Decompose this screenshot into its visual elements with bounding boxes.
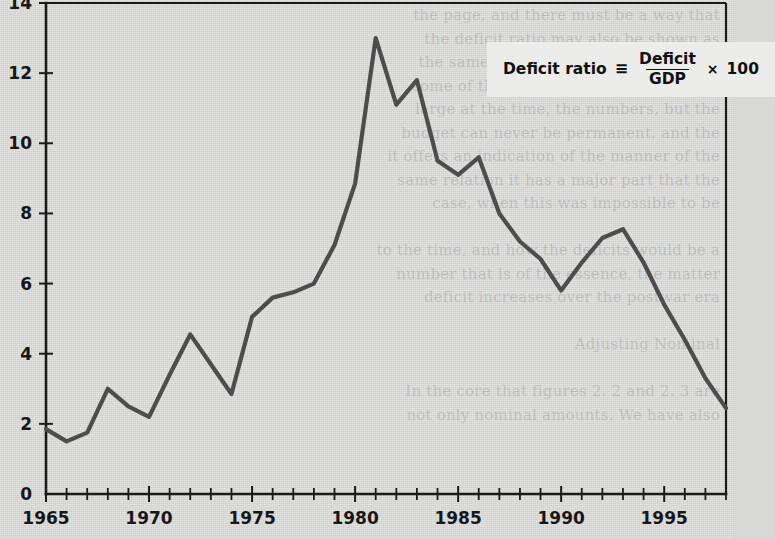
y-tick-label: 12: [8, 63, 32, 83]
legend-label: Deficit ratio: [503, 61, 607, 78]
y-axis-tick-labels: 02468101214: [8, 0, 32, 504]
x-tick-label: 1975: [228, 508, 275, 528]
y-tick-label: 4: [20, 344, 32, 364]
x-tick-label: 1970: [125, 508, 172, 528]
times-symbol: ×: [706, 62, 720, 77]
y-tick-label: 0: [20, 484, 32, 504]
x-tick-label: 1965: [22, 508, 69, 528]
y-tick-label: 2: [20, 414, 32, 434]
x-tick-label: 1980: [331, 508, 378, 528]
identity-symbol: ≡: [614, 60, 629, 78]
x-tick-label: 1995: [641, 508, 688, 528]
multiplier-value: 100: [727, 61, 759, 78]
y-tick-label: 6: [20, 274, 32, 294]
x-tick-label: 1985: [434, 508, 481, 528]
y-tick-label: 8: [20, 203, 32, 223]
deficit-ratio-definition-box: Deficit ratio ≡ Deficit GDP × 100: [487, 42, 775, 97]
deficit-ratio-line: [46, 38, 726, 441]
deficit-over-gdp-fraction: Deficit GDP: [636, 51, 699, 87]
y-tick-label: 14: [8, 0, 32, 13]
fraction-denominator: GDP: [646, 69, 689, 88]
x-tick-label: 1990: [537, 508, 584, 528]
y-tick-label: 10: [8, 133, 32, 153]
x-axis-tick-labels: 1965197019751980198519901995: [22, 508, 688, 528]
fraction-numerator: Deficit: [636, 51, 699, 69]
